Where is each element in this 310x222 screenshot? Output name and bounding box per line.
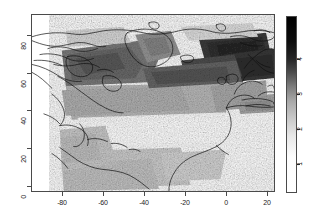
x-tick-label: 0: [224, 199, 228, 207]
x-tick-mark: [62, 192, 63, 196]
colorbar-tick-label: 2: [296, 127, 303, 131]
x-tick-label: -40: [139, 199, 149, 207]
figure-root: -80 -60 -40 -20 0 20 0 20 40 60 80 1 2 3…: [0, 0, 310, 222]
x-tick-mark: [103, 192, 104, 196]
colorbar-tick-label: 4: [296, 57, 303, 61]
coastline-layer: [32, 15, 274, 191]
x-tick-label: -80: [57, 199, 67, 207]
colorbar: 1 2 3 4: [286, 16, 297, 193]
y-tick-label: 20: [20, 149, 28, 169]
x-tick-label: -60: [98, 199, 108, 207]
x-tick-mark: [267, 192, 268, 196]
x-tick-label: 20: [263, 199, 270, 207]
y-tick-label: 60: [20, 74, 28, 94]
y-tick-label: 80: [20, 36, 28, 56]
y-tick-label: 40: [20, 111, 28, 131]
map-plot-panel: [31, 14, 275, 192]
colorbar-tick-label: 1: [296, 162, 303, 166]
y-tick-label: 0: [20, 187, 28, 207]
colorbar-tick-label: 3: [296, 92, 303, 96]
x-tick-mark: [144, 192, 145, 196]
x-tick-mark: [226, 192, 227, 196]
colorbar-gradient: [286, 16, 297, 193]
x-tick-label: -20: [180, 199, 190, 207]
x-tick-mark: [185, 192, 186, 196]
